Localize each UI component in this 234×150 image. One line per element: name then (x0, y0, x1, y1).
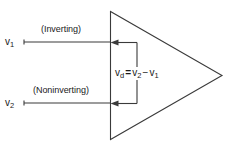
noninverting-input-label: v2 (5, 98, 14, 109)
equation-term2-subscript: 1 (155, 71, 159, 80)
op-amp-differential-input-figure: v1 v2 (Inverting) (Noninverting) vd=v2−v… (0, 0, 234, 150)
vd-arrowhead-noninverting (111, 101, 119, 107)
noninverting-annotation: (Noninverting) (33, 86, 89, 95)
noninverting-input-subscript: 2 (10, 101, 14, 110)
inverting-annotation: (Inverting) (41, 25, 81, 34)
vd-arrowhead-inverting (111, 40, 119, 46)
inverting-input-subscript: 1 (10, 40, 14, 49)
inverting-input-label: v1 (5, 37, 14, 48)
equation-term1-subscript: 2 (137, 71, 141, 80)
differential-voltage-equation: vd=v2−v1 (113, 67, 161, 80)
